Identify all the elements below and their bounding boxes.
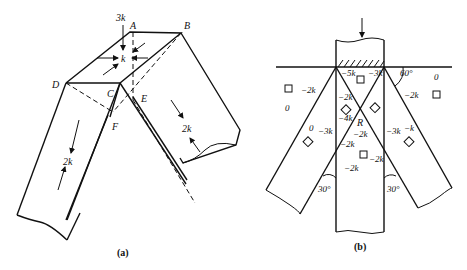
figure-a: 3k A B D C E F k 2k 2k (a) — [17, 12, 240, 259]
left-leg-load-label: 2k — [63, 156, 73, 167]
left-element-right-label: −2k — [301, 85, 317, 95]
vertex-f-label: F — [111, 121, 119, 132]
angle-30-right-label: 30° — [386, 184, 400, 194]
vertex-c-label: C — [107, 88, 114, 99]
region-r-label: R — [356, 117, 363, 128]
center-element-right-label: −2k — [369, 154, 385, 164]
stress-diagram: 3k A B D C E F k 2k 2k (a) — [0, 0, 467, 270]
left-leg-element-b-label: −3k — [318, 126, 334, 136]
angle-60-label: 60° — [400, 68, 413, 78]
post-left-lower-label: −4k — [338, 113, 354, 123]
post-left-upper-label: −2k — [338, 92, 354, 102]
top-element-right-label: −3k — [368, 68, 384, 78]
caption-b: (b) — [354, 241, 366, 253]
top-element-left-label: −5k — [341, 68, 357, 78]
center-element-top-label: −2k — [353, 129, 369, 139]
center-element-bottom-label: −2k — [344, 163, 360, 173]
vertex-e-label: E — [140, 93, 147, 104]
left-leg-element-a-label: 0 — [309, 123, 314, 133]
right-leg-element-a-label: −3k — [386, 126, 402, 136]
figure-b: 60° 30° 30° R −2k 0 0 −2k −5k −3k −2k −4… — [266, 18, 452, 253]
vertex-d-label: D — [51, 79, 60, 90]
right-element-left-label: −2k — [404, 90, 420, 100]
right-element-top-label: 0 — [434, 72, 439, 82]
center-element-left-label: −2k — [340, 139, 356, 149]
load-k-label: k — [121, 53, 126, 64]
vertex-a-label: A — [129, 20, 137, 31]
caption-a: (a) — [117, 247, 129, 259]
load-3k-label: 3k — [115, 12, 126, 23]
right-leg-load-label: 2k — [182, 123, 192, 134]
vertex-b-label: B — [184, 20, 190, 31]
left-element-bottom-label: 0 — [285, 103, 290, 113]
right-leg-element-b-label: −k — [404, 123, 415, 133]
angle-30-left-label: 30° — [317, 184, 331, 194]
